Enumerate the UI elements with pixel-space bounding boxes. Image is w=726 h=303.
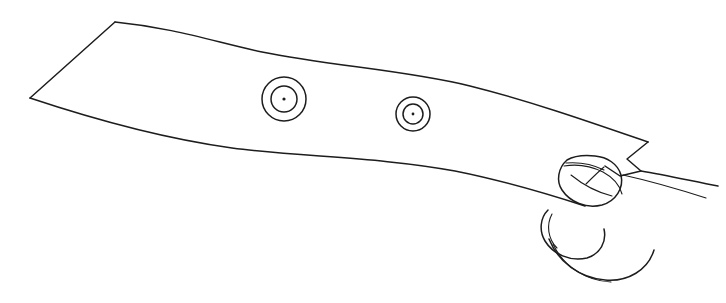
eyelet-right-center-dot bbox=[412, 113, 415, 116]
sketch-canvas bbox=[0, 0, 726, 303]
line-drawing-svg bbox=[0, 0, 726, 303]
eyelet-left-center-dot bbox=[282, 97, 285, 100]
